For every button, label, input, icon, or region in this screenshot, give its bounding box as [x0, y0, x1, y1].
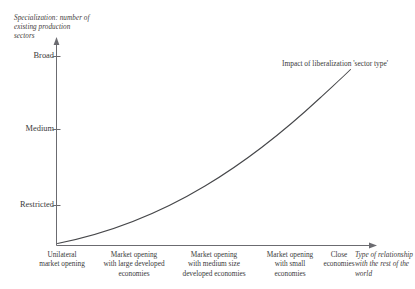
plot-area: [0, 0, 415, 289]
x-category-market-opening-large-developed: Market opening with large developed econ…: [90, 250, 178, 278]
x-axis-title-line-2: with the rest of the: [355, 259, 415, 268]
x-category-2-line-3: developed economies: [168, 269, 260, 278]
x-category-unilateral-market-opening: Unilateral market opening: [24, 250, 100, 269]
x-category-market-opening-medium-developed: Market opening with medium size develope…: [168, 250, 260, 278]
chart-figure: Specialization: number of existing produ…: [0, 0, 415, 289]
x-category-2-line-2: with medium size: [168, 259, 260, 268]
x-axis-title-line-3: world: [355, 269, 415, 278]
x-category-0-line-2: market opening: [24, 259, 100, 268]
x-category-2-line-1: Market opening: [168, 250, 260, 259]
x-axis-category-labels: Unilateral market opening Market opening…: [0, 250, 415, 286]
x-category-1-line-3: economies: [90, 269, 178, 278]
x-category-1-line-2: with large developed: [90, 259, 178, 268]
x-axis-arrowhead: [369, 243, 377, 249]
y-axis-arrowhead: [54, 37, 60, 45]
data-curve-sector-type: [58, 70, 351, 244]
x-category-0-line-1: Unilateral: [24, 250, 100, 259]
x-axis-title-line-1: Type of relationship: [355, 250, 415, 259]
x-category-3-line-3: economies: [252, 269, 328, 278]
x-category-1-line-1: Market opening: [90, 250, 178, 259]
curve-annotation: Impact of liberalization 'sector type': [282, 59, 388, 68]
x-axis-title: Type of relationship with the rest of th…: [355, 250, 415, 278]
